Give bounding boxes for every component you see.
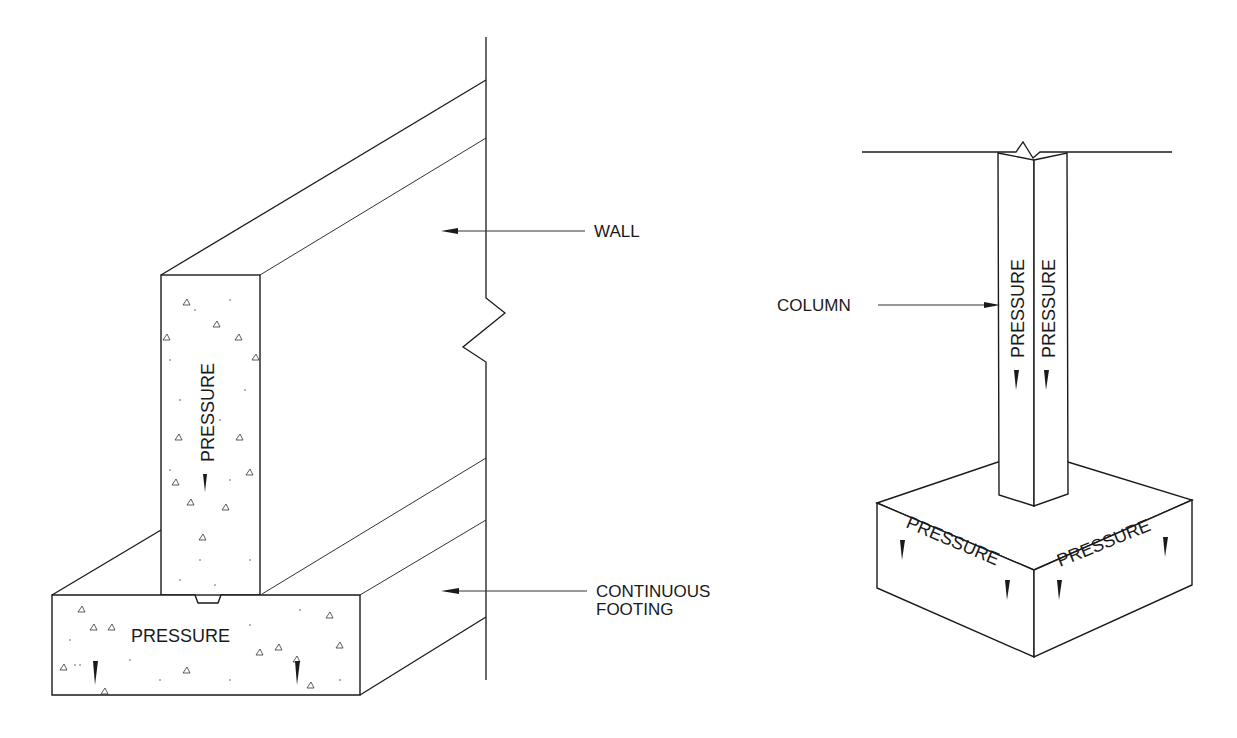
wall-base-edge xyxy=(262,458,486,594)
column-pressure-left-label: PRESSURE xyxy=(1008,259,1028,358)
continuous-label: CONTINUOUS xyxy=(596,582,710,601)
section-break-line xyxy=(463,37,505,680)
wall-pressure-label: PRESSURE xyxy=(198,363,218,462)
footing-label: FOOTING xyxy=(596,600,673,619)
column-pressure-right-label: PRESSURE xyxy=(1039,259,1059,358)
column-cut-line xyxy=(862,142,1172,158)
foundation-pressure-diagram: PRESSURE PRESSURE WALL CONTINUOUS FOOTIN… xyxy=(0,0,1237,738)
footing-top-back-edge xyxy=(360,520,486,595)
wall-footing-figure: PRESSURE PRESSURE WALL CONTINUOUS FOOTIN… xyxy=(52,37,710,695)
column-leader-arrow-icon xyxy=(984,302,1000,308)
wall-leader-arrow-icon xyxy=(441,228,458,234)
footing-pressure-label: PRESSURE xyxy=(131,626,230,646)
column-label: COLUMN xyxy=(777,296,851,315)
wall-top-back-edge xyxy=(260,138,486,275)
column-footing-figure: PRESSURE PRESSURE COLUMN PRESSURE PRESSU… xyxy=(777,142,1192,657)
footing-bottom-back-edge xyxy=(360,617,486,695)
footing-leader-arrow-icon xyxy=(441,588,459,594)
footing-top-left-edge xyxy=(52,530,161,595)
wall-top-edge xyxy=(161,80,486,275)
wall-label: WALL xyxy=(594,222,640,241)
